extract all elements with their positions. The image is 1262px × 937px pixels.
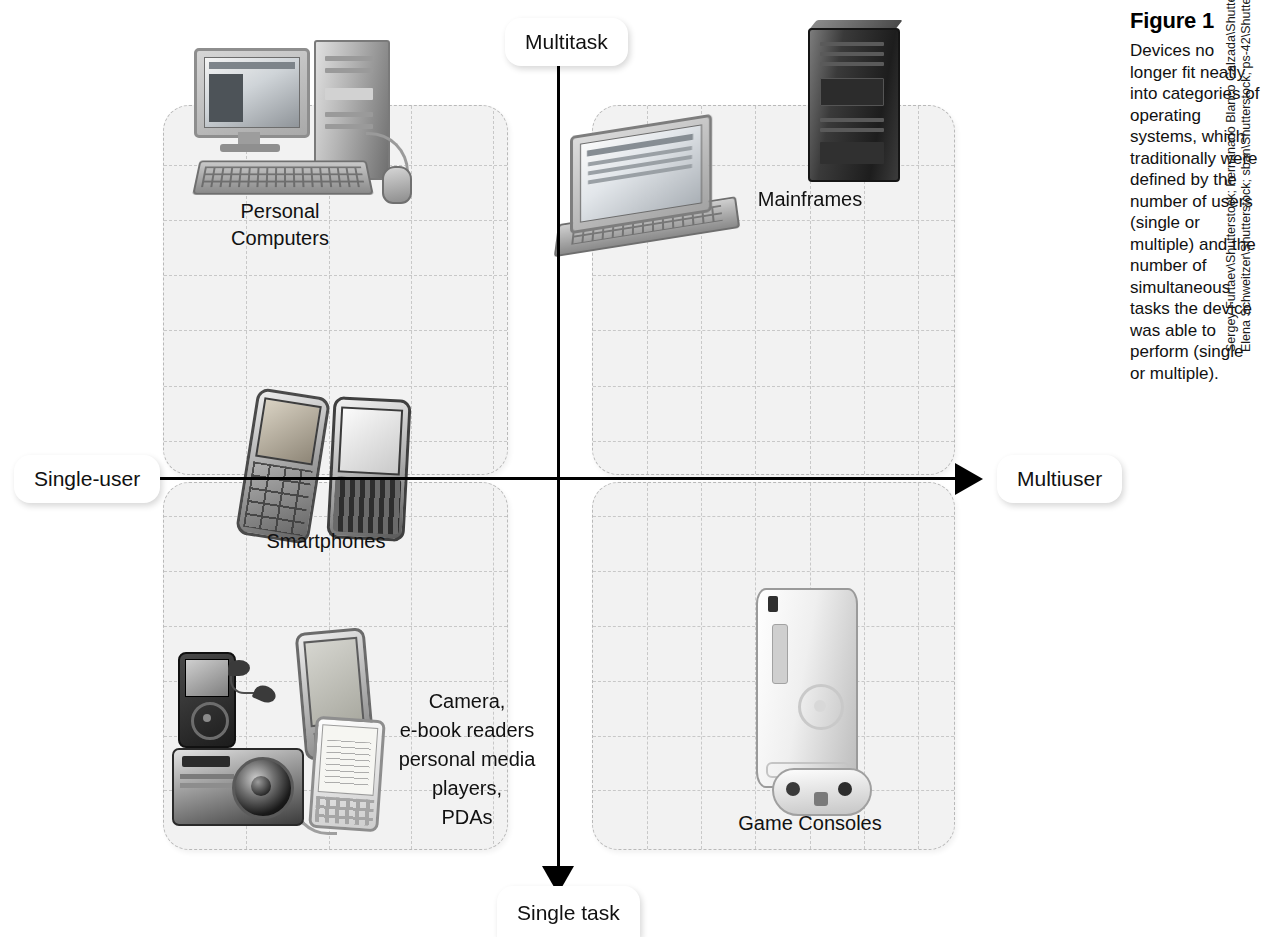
quadrant-label-game-consoles: Game Consoles	[680, 810, 940, 837]
console-tower	[756, 588, 858, 788]
horizontal-axis	[140, 477, 962, 480]
axis-label-single-task: Single task	[497, 886, 640, 937]
axis-label-multiuser: Multiuser	[997, 455, 1122, 503]
quadrant-label-mainframes: Mainframes	[700, 186, 920, 213]
dpad	[814, 792, 828, 806]
camera-grip-strip	[180, 774, 234, 779]
digital-camera-icon	[172, 748, 304, 826]
camera-lens	[232, 757, 294, 819]
right-thumbstick	[838, 782, 852, 796]
monitor-base	[220, 144, 280, 152]
power-ring	[798, 684, 844, 730]
console-vent	[768, 596, 778, 612]
camera-brand-plate	[182, 756, 230, 767]
photo-credits: Sergey Furtaev\Shutterstock; Fernanado B…	[1224, 0, 1254, 352]
monitor-icon	[194, 48, 310, 138]
earbuds-icon	[228, 660, 290, 712]
left-thumbstick	[786, 782, 800, 796]
media-player-screen	[185, 659, 229, 697]
quadrant-label-personal-computers: Personal Computers	[180, 198, 380, 252]
axis-label-multitask: Multitask	[505, 18, 628, 66]
desktop-computer-icon	[186, 40, 416, 200]
gamepad-icon	[772, 768, 872, 816]
caption-column: Figure 1 Devices no longer fit neatly in…	[1120, 0, 1262, 902]
phone-keypad	[243, 461, 313, 536]
phone-screen	[255, 397, 322, 465]
mainframe-case	[808, 28, 900, 182]
mainframe-server-icon	[808, 28, 904, 186]
click-wheel	[191, 702, 229, 740]
credit-line-1: Sergey Furtaev\Shutterstock; Fernanado B…	[1224, 0, 1239, 352]
qwerty-smartphone-icon	[326, 396, 411, 542]
keyboard-icon	[192, 161, 374, 195]
phone-qwerty-keyboard	[333, 476, 402, 534]
disc-slot	[772, 624, 788, 684]
arrow-right-icon	[955, 463, 983, 495]
mouse-icon	[382, 166, 412, 204]
quadrant-label-other-devices: Camera, e-book readers personal media pl…	[372, 687, 562, 832]
pda-screen	[303, 637, 364, 727]
credit-line-2: Elena Schweitzer\Shutterstock; sban\Shut…	[1239, 0, 1254, 352]
phone-screen	[338, 406, 403, 475]
quadrant-diagram: Single-user Multiuser Multitask Single t…	[0, 0, 1120, 902]
game-console-icon	[748, 588, 868, 808]
axis-label-single-user: Single-user	[14, 455, 160, 503]
quadrant-label-smartphones: Smartphones	[216, 528, 436, 555]
